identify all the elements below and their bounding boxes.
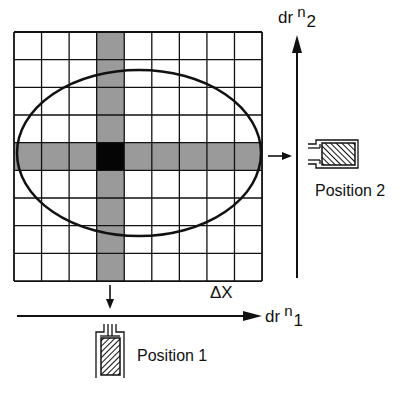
grid-cell: [69, 143, 97, 171]
grid-cell: [97, 143, 125, 171]
grid-cell: [97, 87, 125, 115]
projection-arrow-down: [106, 285, 114, 309]
detector-position-2: [308, 140, 358, 168]
vertical-axis-label: drn2: [278, 3, 316, 31]
projection-diagram: drn2 drn1 ΔX Position 2 Position 1: [0, 0, 398, 394]
detector-position-2-label: Position 2: [315, 182, 385, 199]
grid-cell: [124, 143, 152, 171]
grid-cell: [97, 115, 125, 143]
grid-cell: [179, 143, 207, 171]
detector-position-1-label: Position 1: [137, 347, 207, 364]
grid-cell: [207, 143, 235, 171]
grid-cell: [97, 226, 125, 254]
detector-position-1: [96, 324, 124, 378]
projection-arrow-right: [268, 152, 292, 160]
delta-x-label: ΔX: [210, 283, 233, 302]
horizontal-axis-label: drn1: [265, 302, 303, 330]
grid-cell: [97, 253, 125, 281]
horizontal-axis: [17, 311, 262, 321]
vertical-axis: [292, 35, 302, 278]
grid-cell: [42, 143, 70, 171]
grid-cell: [97, 170, 125, 198]
grid-cell: [97, 198, 125, 226]
grid-cell: [234, 143, 262, 171]
grid-cell: [152, 143, 180, 171]
grid-cell: [97, 32, 125, 60]
